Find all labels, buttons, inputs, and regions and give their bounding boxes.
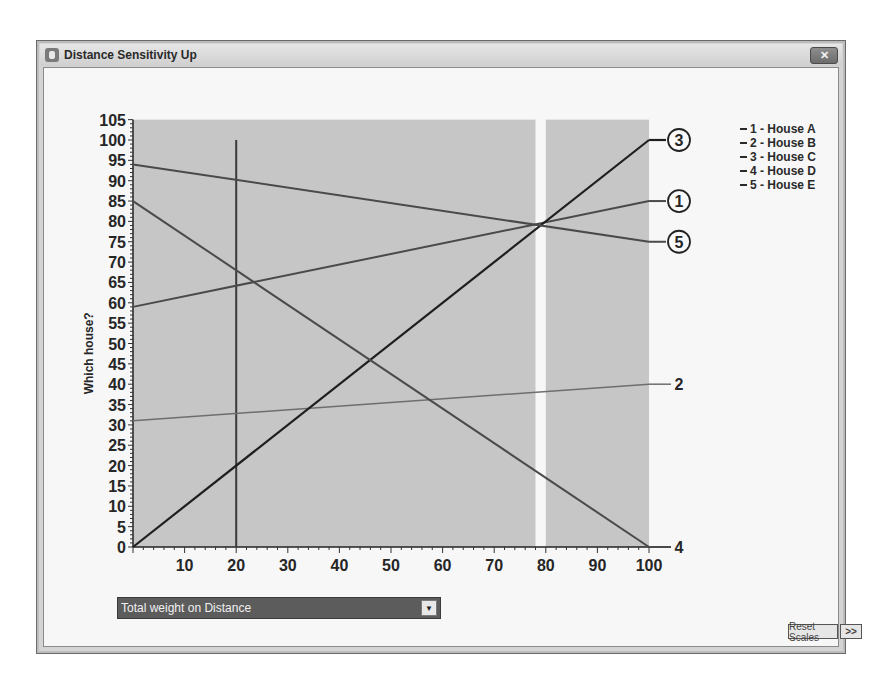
legend-item-house-e: 5 - House E bbox=[740, 178, 816, 192]
x-tick-label: 20 bbox=[227, 557, 245, 574]
y-tick-label: 75 bbox=[108, 234, 126, 251]
y-tick-label: 40 bbox=[108, 376, 126, 393]
series-label-number: 3 bbox=[675, 132, 684, 149]
series-label-number: 1 bbox=[675, 193, 684, 210]
y-tick-label: 70 bbox=[108, 254, 126, 271]
x-tick-label: 80 bbox=[537, 557, 555, 574]
legend-line-icon bbox=[740, 184, 747, 186]
legend-item-house-b: 2 - House B bbox=[740, 136, 816, 150]
expand-button[interactable]: >> bbox=[840, 624, 862, 639]
y-tick-label: 90 bbox=[108, 173, 126, 190]
dropdown-selected-value: Total weight on Distance bbox=[118, 601, 421, 615]
y-tick-label: 25 bbox=[108, 437, 126, 454]
y-tick-label: 30 bbox=[108, 417, 126, 434]
x-tick-label: 70 bbox=[485, 557, 503, 574]
x-tick-label: 50 bbox=[382, 557, 400, 574]
x-tick-label: 100 bbox=[636, 557, 663, 574]
legend-line-icon bbox=[740, 142, 747, 144]
legend-item-house-d: 4 - House D bbox=[740, 164, 816, 178]
legend: 1 - House A 2 - House B 3 - House C 4 - … bbox=[740, 122, 816, 192]
legend-line-icon bbox=[740, 170, 747, 172]
y-tick-label: 20 bbox=[108, 458, 126, 475]
y-tick-label: 105 bbox=[99, 112, 126, 129]
legend-item-house-c: 3 - House C bbox=[740, 150, 816, 164]
y-tick-label: 35 bbox=[108, 397, 126, 414]
x-tick-label: 30 bbox=[279, 557, 297, 574]
x-tick-label: 10 bbox=[176, 557, 194, 574]
y-tick-label: 55 bbox=[108, 315, 126, 332]
x-tick-label: 90 bbox=[589, 557, 607, 574]
reset-scales-button[interactable]: Reset Scales bbox=[788, 624, 838, 639]
y-tick-label: 85 bbox=[108, 193, 126, 210]
y-tick-label: 65 bbox=[108, 274, 126, 291]
y-tick-label: 100 bbox=[99, 132, 126, 149]
series-label-number: 5 bbox=[675, 234, 684, 251]
y-tick-label: 0 bbox=[117, 539, 126, 556]
x-tick-label: 60 bbox=[434, 557, 452, 574]
y-tick-label: 5 bbox=[117, 519, 126, 536]
y-axis-label: Which house? bbox=[82, 312, 96, 394]
plot-area-left bbox=[133, 120, 535, 547]
series-label-number: 2 bbox=[675, 376, 684, 393]
plot-area-right bbox=[546, 120, 649, 547]
y-tick-label: 10 bbox=[108, 498, 126, 515]
legend-line-icon bbox=[740, 156, 747, 158]
legend-item-house-a: 1 - House A bbox=[740, 122, 816, 136]
chevron-down-icon[interactable]: ▼ bbox=[421, 600, 437, 616]
y-tick-label: 60 bbox=[108, 295, 126, 312]
weight-dropdown[interactable]: Total weight on Distance ▼ bbox=[117, 597, 441, 619]
series-label-number: 4 bbox=[675, 539, 684, 556]
y-tick-label: 15 bbox=[108, 478, 126, 495]
x-tick-label: 40 bbox=[331, 557, 349, 574]
legend-line-icon bbox=[740, 128, 747, 130]
sensitivity-chart: 0510152025303540455055606570758085909510… bbox=[0, 0, 884, 682]
y-tick-label: 50 bbox=[108, 336, 126, 353]
y-tick-label: 80 bbox=[108, 213, 126, 230]
y-tick-label: 95 bbox=[108, 152, 126, 169]
y-tick-label: 45 bbox=[108, 356, 126, 373]
